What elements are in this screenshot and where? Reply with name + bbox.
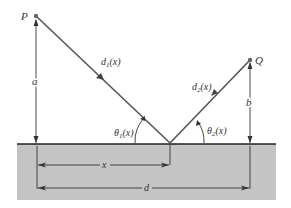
angle-theta1-arc: [135, 118, 144, 143]
arrow-down-icon: [34, 136, 39, 143]
arrow-up-icon: [248, 62, 253, 69]
point-p: [34, 14, 38, 18]
label-b: b: [246, 96, 252, 108]
reflection-diagram: P Q a b d1(x) d2(x) θ1(x) θ2(x) x d: [0, 0, 291, 208]
arrow-up-icon: [34, 19, 39, 26]
point-q: [248, 58, 252, 62]
arrow-down-icon: [248, 136, 253, 143]
label-p: P: [20, 10, 28, 22]
label-x: x: [101, 159, 107, 170]
label-d2: d2(x): [192, 81, 212, 94]
label-a: a: [32, 75, 38, 87]
label-theta2: θ2(x): [207, 125, 227, 138]
label-q: Q: [255, 54, 263, 66]
label-theta1: θ1(x): [114, 127, 134, 140]
label-d1: d1(x): [101, 56, 121, 69]
angle-theta2-arc: [198, 122, 204, 143]
